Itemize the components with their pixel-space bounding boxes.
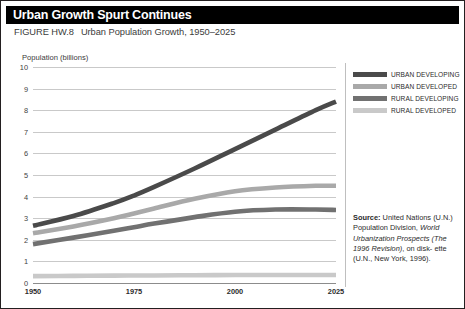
y-tick-label: 4 — [12, 192, 28, 201]
y-tick-label: 10 — [12, 63, 28, 72]
legend-label: URBAN DEVELOPING — [391, 71, 460, 78]
legend-label: RURAL DEVELOPED — [391, 107, 456, 114]
plot-area: 012345678910 1950197520002025 — [33, 67, 336, 283]
legend-swatch — [353, 108, 387, 113]
y-tick-label: 9 — [12, 84, 28, 93]
source-line-1: United Nations — [381, 213, 432, 222]
x-tick-label: 1950 — [25, 287, 41, 296]
y-tick-label: 5 — [12, 171, 28, 180]
x-tick-label: 2025 — [328, 287, 344, 296]
y-axis-title: Population (billions) — [22, 53, 88, 62]
legend-swatch — [353, 96, 387, 101]
figure-caption-text: Urban Population Growth, 1950–2025 — [81, 27, 235, 37]
column-divider — [345, 63, 346, 287]
source-note: Source: United Nations (U.N.) Population… — [353, 213, 457, 264]
chart-legend: URBAN DEVELOPINGURBAN DEVELOPEDRURAL DEV… — [353, 69, 461, 117]
figure-number: FIGURE HW.8 — [14, 27, 74, 37]
source-line-4-rest: , on disk- — [402, 244, 432, 253]
title-bar: Urban Growth Spurt Continues — [6, 6, 459, 24]
page-title: Urban Growth Spurt Continues — [6, 8, 191, 22]
legend-label: URBAN DEVELOPED — [391, 83, 457, 90]
figure-panel: Urban Growth Spurt Continues FIGURE HW.8… — [0, 0, 465, 309]
series-line — [33, 275, 336, 276]
legend-item: URBAN DEVELOPING — [353, 69, 461, 80]
x-tick-label: 2000 — [227, 287, 243, 296]
figure-caption: FIGURE HW.8Urban Population Growth, 1950… — [14, 27, 235, 37]
y-tick-label: 6 — [12, 149, 28, 158]
y-tick-label: 7 — [12, 127, 28, 136]
source-label: Source: — [353, 213, 381, 222]
legend-swatch — [353, 84, 387, 89]
y-tick-label: 8 — [12, 106, 28, 115]
series-lines — [33, 67, 336, 283]
gridline — [33, 283, 336, 284]
legend-item: URBAN DEVELOPED — [353, 81, 461, 92]
legend-swatch — [353, 72, 387, 77]
legend-item: RURAL DEVELOPING — [353, 93, 461, 104]
y-tick-label: 1 — [12, 257, 28, 266]
legend-label: RURAL DEVELOPING — [391, 95, 459, 102]
y-tick-label: 2 — [12, 235, 28, 244]
y-tick-label: 3 — [12, 214, 28, 223]
legend-item: RURAL DEVELOPED — [353, 105, 461, 116]
x-tick-label: 1975 — [126, 287, 142, 296]
